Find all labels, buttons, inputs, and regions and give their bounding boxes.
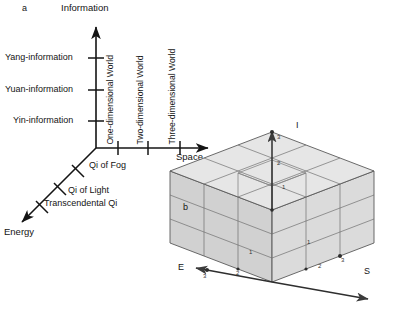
cube-e-axis-label: E: [178, 263, 184, 272]
cube-mark-i-1: 1: [282, 184, 285, 190]
cube-mark-s-3: 3: [341, 257, 344, 263]
cube-mark-i-3: 3: [277, 134, 280, 140]
cube-i-axis-label: I: [296, 121, 299, 130]
cube-mark-s-2: 2: [318, 263, 321, 269]
cube-mark-i-2: 2: [277, 160, 280, 166]
panel-b-vector-layer: [0, 0, 393, 314]
cube-s-axis-label: S: [364, 267, 370, 276]
panel-letter-b: b: [183, 203, 188, 212]
cube-mark-s-1: 1: [307, 239, 310, 245]
cube-mark-e-3: 3: [203, 273, 206, 279]
cube-mark-e-1: 1: [249, 249, 252, 255]
figure-canvas: a Information Space Energy Yang-informat…: [0, 0, 393, 314]
cube-mark-e-2: 2: [236, 270, 239, 276]
